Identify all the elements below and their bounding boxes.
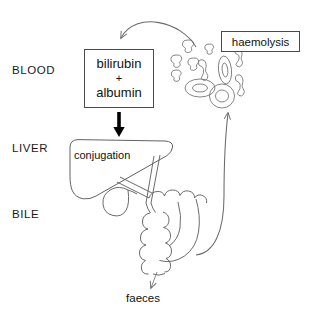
red-blood-cell xyxy=(210,84,235,108)
cell-fragments-group xyxy=(171,40,214,82)
intestine xyxy=(140,190,207,275)
arrow-haemolysis-to-bilirubin xyxy=(121,22,196,47)
cell-fragment xyxy=(188,58,199,70)
plus-sign: + xyxy=(116,73,122,84)
cell-fragment xyxy=(171,55,182,68)
compartment-label-liver: LIVER xyxy=(12,143,48,155)
diagram-canvas: BLOOD LIVER BILE bilirubin + albumin hae… xyxy=(0,0,311,316)
haemolysis-box: haemolysis xyxy=(221,31,300,52)
bilirubin-albumin-box: bilirubin + albumin xyxy=(84,49,154,108)
albumin-label: albumin xyxy=(96,86,142,100)
compartment-label-bile: BILE xyxy=(12,209,39,221)
red-blood-cells-group xyxy=(185,55,235,108)
arrow-intestine-to-blood xyxy=(196,113,228,255)
cell-fragment xyxy=(171,70,181,81)
dumbbell-fragment xyxy=(198,60,207,81)
conjugation-label: conjugation xyxy=(74,150,130,161)
dumbbell-fragment xyxy=(235,75,244,96)
compartment-label-blood: BLOOD xyxy=(12,65,55,77)
gallbladder xyxy=(103,187,137,216)
bilirubin-label: bilirubin xyxy=(97,57,142,71)
cell-fragment xyxy=(205,44,214,54)
red-blood-cell xyxy=(217,55,233,84)
red-blood-cell xyxy=(185,79,215,97)
arrow-bilirubin-to-liver xyxy=(113,112,124,137)
faeces-label: faeces xyxy=(119,293,167,305)
cell-dumbbells-group xyxy=(198,48,244,96)
